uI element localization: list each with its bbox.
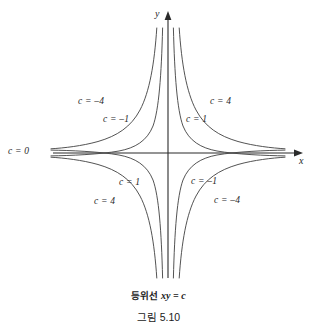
curve-c4-q1 bbox=[179, 28, 285, 149]
x-axis-label: x bbox=[299, 155, 303, 166]
caption-title: 등위선 xy = c bbox=[0, 288, 317, 303]
axis-group bbox=[53, 11, 303, 278]
curve-cneg1-q2 bbox=[51, 28, 163, 156]
caption-number: 그림 5.10 bbox=[0, 309, 317, 325]
curve-label-c-1-lower-left: c = 1 bbox=[119, 177, 140, 187]
curve-label-c-4-lower-left: c = 4 bbox=[94, 196, 115, 206]
figure-container: c = –4 c = –1 c = 4 c = 1 c = 1 c = 4 c … bbox=[0, 0, 317, 335]
curve-c1-q1 bbox=[173, 28, 285, 156]
curve-c4-q3 bbox=[51, 157, 157, 278]
figure-caption: 등위선 xy = c 그림 5.10 bbox=[0, 288, 317, 325]
y-axis-arrowhead bbox=[165, 11, 172, 20]
curve-label-c-neg1-lower-right: c = –1 bbox=[191, 176, 217, 186]
caption-title-equation: xy = c bbox=[161, 290, 186, 301]
curve-label-c-1-upper-right: c = 1 bbox=[186, 114, 207, 124]
curve-label-c-0: c = 0 bbox=[8, 146, 29, 156]
curve-label-c-neg4-lower-right: c = –4 bbox=[214, 195, 240, 205]
curve-label-c-neg1-upper-left: c = –1 bbox=[103, 114, 129, 124]
caption-title-prefix: 등위선 bbox=[131, 290, 158, 301]
y-axis-label: y bbox=[155, 8, 159, 19]
curve-cneg1-q4 bbox=[173, 150, 285, 278]
curve-label-c-4-upper-right: c = 4 bbox=[210, 96, 231, 106]
curve-label-c-neg4-upper-left: c = –4 bbox=[78, 96, 104, 106]
plot-svg bbox=[0, 0, 317, 290]
curve-c1-q3 bbox=[51, 150, 163, 278]
curve-cneg4-q2 bbox=[51, 28, 157, 149]
contour-plot: c = –4 c = –1 c = 4 c = 1 c = 1 c = 4 c … bbox=[0, 0, 317, 290]
